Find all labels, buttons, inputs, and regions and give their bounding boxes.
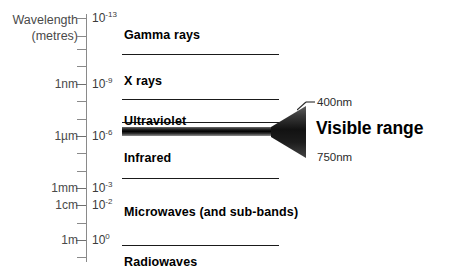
decade-label-10e-9: 10-9 — [92, 78, 112, 90]
band-label-infrared: Infrared — [124, 152, 171, 165]
axis-tick — [77, 153, 86, 154]
band-label-x-rays: X rays — [124, 75, 162, 88]
unit-label-1cm: 1cm — [55, 199, 78, 211]
exponent: -2 — [105, 197, 112, 206]
visible-range-cone — [271, 106, 306, 158]
leader-line-400nm — [297, 101, 315, 111]
exponent: -9 — [105, 76, 112, 85]
decade-label-10e0: 100 — [92, 234, 110, 246]
axis-tick — [77, 171, 86, 172]
axis-title-line2: (metres) — [31, 29, 78, 44]
axis-tick — [77, 49, 86, 50]
band-separator — [122, 245, 279, 246]
band-separator — [122, 99, 279, 100]
axis-tick — [77, 36, 86, 37]
exponent: -3 — [105, 180, 112, 189]
axis-tick — [77, 257, 86, 258]
unit-label-1um: 1µm — [54, 130, 78, 142]
wavelength-axis-line — [86, 14, 87, 262]
decade-label-10e-6: 10-6 — [92, 130, 112, 142]
axis-tick — [77, 223, 86, 224]
unit-label-1mm: 1mm — [51, 182, 78, 194]
exponent: 0 — [105, 232, 109, 241]
label-400nm: 400nm — [317, 96, 352, 108]
axis-tick — [77, 119, 86, 120]
band-label-radiowaves: Radiowaves — [124, 256, 197, 269]
axis-tick — [77, 18, 86, 19]
band-label-microwaves: Microwaves (and sub-bands) — [124, 206, 298, 219]
axis-title-line1: Wavelength — [12, 13, 78, 28]
visible-range-title: Visible range — [316, 118, 423, 138]
axis-tick — [77, 66, 86, 67]
visible-light-band — [122, 127, 273, 136]
decade-label-10e-2: 10-2 — [92, 199, 112, 211]
unit-label-1nm: 1nm — [55, 78, 78, 90]
label-750nm: 750nm — [317, 151, 352, 163]
electromagnetic-spectrum-diagram: Wavelength (metres) 10-13 10-9 10-6 10-3… — [0, 0, 461, 275]
axis-tick — [77, 101, 86, 102]
band-separator — [122, 54, 279, 55]
exponent: -6 — [105, 128, 112, 137]
band-separator — [122, 178, 279, 179]
decade-label-10e-13: 10-13 — [92, 12, 117, 24]
band-label-gamma-rays: Gamma rays — [124, 29, 200, 42]
unit-label-1m: 1m — [61, 234, 78, 246]
decade-label-10e-3: 10-3 — [92, 182, 112, 194]
exponent: -13 — [105, 10, 117, 19]
